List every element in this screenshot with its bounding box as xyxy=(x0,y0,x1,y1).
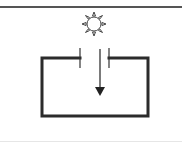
circuit-diagram xyxy=(0,0,182,143)
bottom-divider xyxy=(0,141,182,142)
sun-icon xyxy=(82,12,106,36)
arrow-down-icon xyxy=(95,49,105,96)
